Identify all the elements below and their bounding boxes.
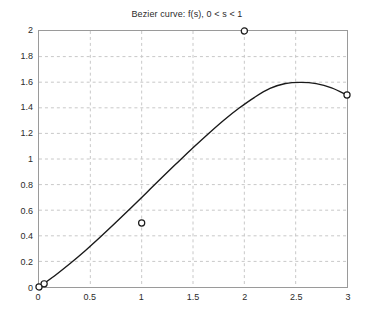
x-tick-label: 0.5 [83, 292, 96, 302]
y-tick-label: 1.8 [20, 51, 33, 61]
x-tick-label: 2 [242, 292, 247, 302]
control-point-marker [344, 92, 350, 98]
x-axis-tick-labels: 00.511.522.53 [38, 292, 348, 306]
control-point-marker [41, 281, 47, 287]
control-point-markers [39, 31, 347, 287]
x-tick-label: 3 [345, 292, 350, 302]
x-tick-label: 1.5 [187, 292, 200, 302]
y-tick-label: 0.4 [20, 231, 33, 241]
control-point-marker [139, 220, 145, 226]
y-tick-label: 1.6 [20, 77, 33, 87]
y-tick-label: 1 [28, 154, 33, 164]
y-tick-label: 1.2 [20, 128, 33, 138]
y-tick-label: 0.8 [20, 180, 33, 190]
x-tick-label: 0 [35, 292, 40, 302]
y-tick-label: 0.2 [20, 257, 33, 267]
x-tick-label: 1 [139, 292, 144, 302]
y-tick-label: 2 [28, 25, 33, 35]
y-tick-label: 1.4 [20, 102, 33, 112]
y-axis-tick-labels: 00.20.40.60.811.21.41.61.82 [0, 30, 33, 288]
chart-title: Bezier curve: f(s), 0 < s < 1 [0, 9, 374, 19]
control-point-marker [241, 28, 247, 34]
plot-area [38, 30, 348, 288]
y-tick-label: 0.6 [20, 206, 33, 216]
y-tick-label: 0 [28, 283, 33, 293]
x-tick-label: 2.5 [290, 292, 303, 302]
bezier-curve-figure: Bezier curve: f(s), 0 < s < 1 00.20.40.6… [0, 0, 374, 317]
